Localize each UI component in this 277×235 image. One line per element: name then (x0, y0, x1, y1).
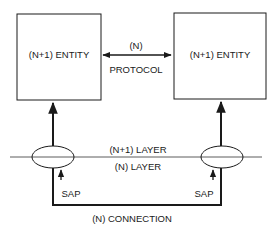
right-entity-box: (N+1) ENTITY (174, 13, 266, 99)
protocol-label: PROTOCOL (109, 64, 162, 75)
osi-layer-diagram: (N+1) ENTITY (N+1) ENTITY (N) PROTOCOL (… (0, 0, 277, 235)
upper-layer-label: (N+1) LAYER (109, 144, 166, 155)
left-entity-label: (N+1) ENTITY (29, 49, 90, 60)
left-sap-label: SAP (61, 188, 80, 199)
protocol-n-label: (N) (129, 40, 142, 51)
lower-layer-label: (N) LAYER (115, 161, 161, 172)
protocol-arrow: (N) PROTOCOL (103, 40, 171, 75)
n-connection-path (53, 168, 221, 205)
left-entity-box: (N+1) ENTITY (17, 14, 101, 100)
connection-label: (N) CONNECTION (92, 213, 172, 224)
right-entity-label: (N+1) ENTITY (190, 49, 251, 60)
right-sap-label: SAP (194, 188, 213, 199)
